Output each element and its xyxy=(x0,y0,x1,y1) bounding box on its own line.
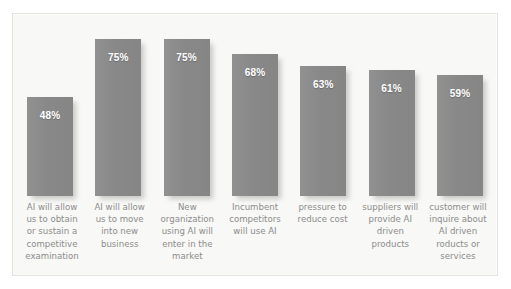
bar[interactable]: 61% xyxy=(369,70,415,196)
bar-value-label: 63% xyxy=(300,79,346,90)
bar[interactable]: 59% xyxy=(437,75,483,196)
bar-value-label: 75% xyxy=(95,52,141,63)
bar-column: 61% xyxy=(369,14,415,196)
category-label: suppliers will provide AI driven product… xyxy=(359,201,421,250)
bar[interactable]: 75% xyxy=(164,39,210,196)
bar[interactable]: 63% xyxy=(300,66,346,196)
bar[interactable]: 75% xyxy=(95,39,141,196)
bar-value-label: 48% xyxy=(27,110,73,121)
category-label: Incumbent competitors will use AI xyxy=(224,201,286,238)
bar-value-label: 59% xyxy=(437,88,483,99)
bar-value-label: 68% xyxy=(232,67,278,78)
bar-column: 59% xyxy=(437,14,483,196)
bar-value-label: 75% xyxy=(164,52,210,63)
bars-container: 48% 75% 75% 68% 63% xyxy=(27,14,483,196)
category-label: customer will inquire about AI driven ro… xyxy=(427,201,489,262)
bar[interactable]: 68% xyxy=(232,54,278,196)
bar-value-label: 61% xyxy=(369,83,415,94)
bar-column: 63% xyxy=(300,14,346,196)
category-labels-container: AI will allow us to obtain or sustain a … xyxy=(21,201,489,262)
bar-column: 75% xyxy=(164,14,210,196)
bar-chart-figure: 48% 75% 75% 68% 63% xyxy=(0,0,511,289)
category-label: New organization using AI will enter in … xyxy=(156,201,218,262)
plot-area: 48% 75% 75% 68% 63% xyxy=(13,14,497,275)
bar-column: 75% xyxy=(95,14,141,196)
category-label: AI will allow us to move into new busine… xyxy=(89,201,151,250)
bar[interactable]: 48% xyxy=(27,97,73,196)
bar-column: 48% xyxy=(27,14,73,196)
bar-column: 68% xyxy=(232,14,278,196)
category-label: pressure to reduce cost xyxy=(292,201,354,225)
category-label: AI will allow us to obtain or sustain a … xyxy=(21,201,83,262)
